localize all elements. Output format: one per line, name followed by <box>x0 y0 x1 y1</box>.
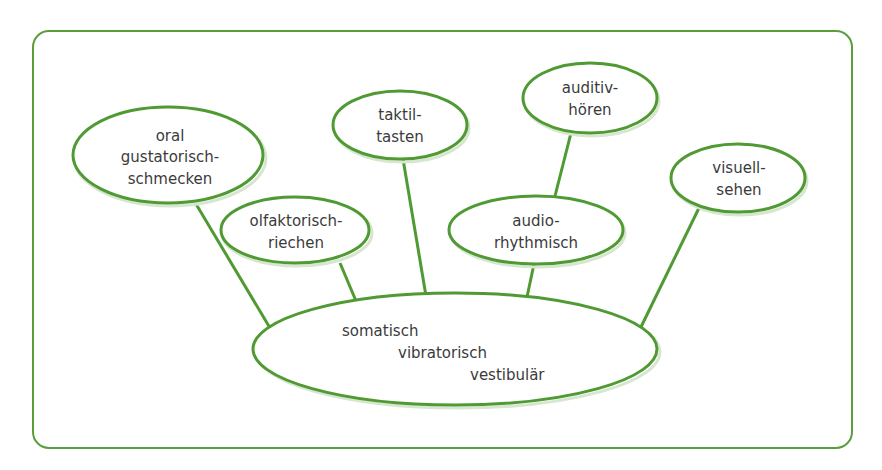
node-audio: audio- rhythmisch <box>449 196 625 267</box>
center-node: somatisch vibratorisch vestibulär <box>253 293 660 408</box>
node-visuell-line-2: sehen <box>716 181 761 199</box>
node-taktil: taktil- tasten <box>333 91 469 162</box>
node-audio-line-1: audio- <box>512 212 559 230</box>
link-taktil <box>403 159 426 296</box>
node-audio-line-2: rhythmisch <box>494 234 578 252</box>
node-visuell-line-1: visuell- <box>712 159 765 177</box>
node-auditiv-line-1: auditiv- <box>562 79 618 97</box>
center-line-2: vibratorisch <box>398 344 487 362</box>
node-olfaktorisch: olfaktorisch- riechen <box>221 197 372 266</box>
node-auditiv: auditiv- hören <box>523 63 659 136</box>
link-auditiv <box>555 133 571 196</box>
sensory-diagram: somatisch vibratorisch vestibulär oral g… <box>0 0 882 470</box>
node-auditiv-line-2: hören <box>568 101 611 119</box>
node-olfaktorisch-line-2: riechen <box>268 234 324 252</box>
link-olfaktorisch <box>340 263 356 301</box>
node-oral-line-3: schmecken <box>128 170 213 188</box>
center-line-1: somatisch <box>342 322 418 340</box>
node-olfaktorisch-line-1: olfaktorisch- <box>250 212 343 230</box>
link-audio <box>527 264 534 297</box>
node-oral: oral gustatorisch- schmecken <box>73 107 266 206</box>
node-taktil-line-2: tasten <box>376 128 424 146</box>
node-oral-line-2: gustatorisch- <box>121 148 219 166</box>
link-visuell <box>640 208 699 329</box>
node-visuell: visuell- sehen <box>671 144 807 215</box>
node-oral-line-1: oral <box>156 127 185 145</box>
center-line-3: vestibulär <box>470 366 545 384</box>
node-taktil-line-1: taktil- <box>378 106 421 124</box>
